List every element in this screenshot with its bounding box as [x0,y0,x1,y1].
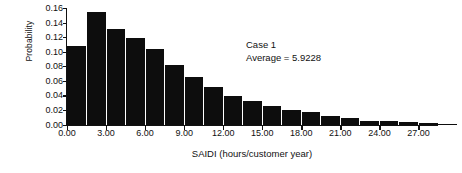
bar [243,101,262,125]
bar [87,12,106,125]
bar [341,118,360,125]
y-tick-mark [63,37,67,38]
bar [204,87,223,125]
x-tick-label: 18.00 [290,128,313,138]
x-axis-line [66,125,438,126]
plot-area [66,8,438,126]
x-axis-title: SAIDI (hours/customer year) [66,148,438,159]
y-axis-tick-labels: 0.000.020.040.060.080.100.120.140.16 [29,8,63,126]
y-tick-mark [63,8,67,9]
bar [438,124,457,125]
y-tick-mark [63,66,67,67]
x-tick-label: 24.00 [368,128,391,138]
annotation-average: Average = 5.9228 [246,51,321,64]
bar [126,38,145,125]
chart-figure: Probability 0.000.020.040.060.080.100.12… [0,0,462,173]
y-tick-label: 0.16 [45,4,63,13]
bar [67,46,86,125]
x-tick-label: 3.00 [97,128,115,138]
y-tick-label: 0.10 [45,47,63,56]
x-tick-label: 21.00 [329,128,352,138]
y-tick-label: 0.06 [45,76,63,85]
bar [224,96,243,124]
bar [165,65,184,125]
y-tick-label: 0.08 [45,62,63,71]
bar [321,116,340,125]
bar [399,122,418,124]
y-tick-mark [63,95,67,96]
bar [107,29,126,124]
y-tick-mark [63,110,67,111]
y-tick-mark [63,81,67,82]
x-tick-label: 12.00 [212,128,235,138]
bar [282,110,301,125]
bar [302,112,321,124]
y-tick-label: 0.02 [45,106,63,115]
bar-series [67,8,438,125]
annotation-case: Case 1 [246,38,321,51]
bar [360,121,379,125]
x-tick-label: 9.00 [175,128,193,138]
x-tick-label: 6.00 [136,128,154,138]
y-tick-label: 0.04 [45,91,63,100]
x-axis-tick-labels: 0.003.006.009.0012.0015.0018.0021.0024.0… [66,128,438,142]
bar [263,106,282,124]
y-tick-mark [63,23,67,24]
bar [146,49,165,125]
x-tick-label: 0.00 [58,128,76,138]
y-tick-label: 0.12 [45,33,63,42]
y-tick-label: 0.14 [45,18,63,27]
y-tick-mark [63,125,67,126]
x-tick-label: 27.00 [407,128,430,138]
chart-annotation: Case 1 Average = 5.9228 [246,38,321,64]
bar [419,123,438,124]
x-tick-label: 15.00 [251,128,274,138]
y-tick-mark [63,52,67,53]
bar [185,77,204,125]
bar [380,121,399,125]
